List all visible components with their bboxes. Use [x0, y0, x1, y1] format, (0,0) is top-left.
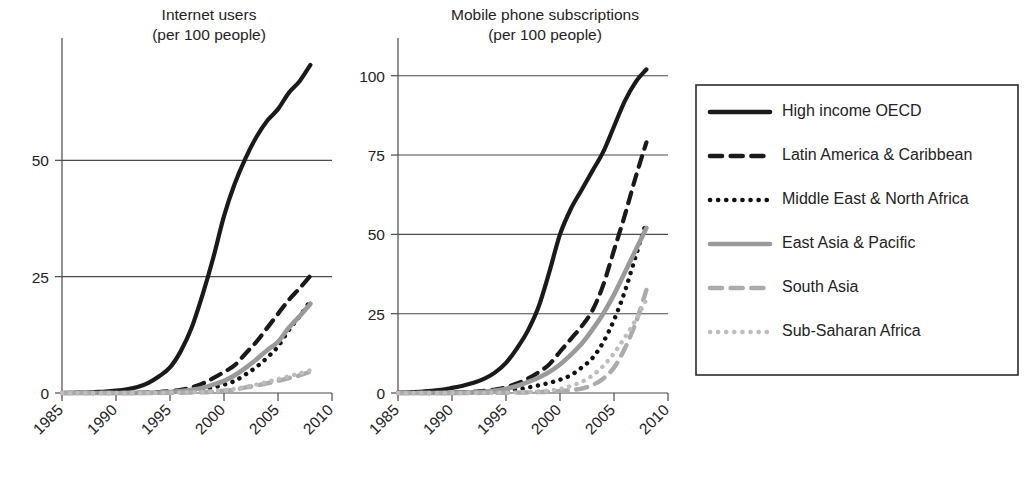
series-line-east-asia-pacific [398, 228, 646, 393]
legend: High income OECDLatin America & Caribbea… [696, 85, 1018, 375]
xtick-label-1990: 1990 [84, 401, 121, 438]
xtick-label-1995: 1995 [138, 401, 174, 437]
legend-label-1: High income OECD [782, 102, 922, 119]
legend-label-4: East Asia & Pacific [782, 234, 915, 251]
panel-title-line-1: Internet users [162, 6, 257, 23]
panel-title-line-1: Mobile phone subscriptions [451, 6, 639, 23]
series-line-latin-america-caribbean [398, 142, 646, 393]
xtick-label-1995: 1995 [474, 401, 510, 437]
xtick-label-1985: 1985 [30, 401, 66, 437]
ytick-label-50: 50 [368, 226, 386, 243]
legend-item-east-asia-pacific[interactable]: East Asia & Pacific [710, 234, 915, 251]
ytick-label-0: 0 [40, 385, 49, 402]
ytick-label-25: 25 [32, 269, 49, 286]
chart-figure: Internet users(per 100 people)0255019851… [0, 0, 1025, 480]
series-line-latin-america-caribbean [62, 276, 310, 393]
legend-label-5: South Asia [782, 278, 859, 295]
xtick-label-2010: 2010 [300, 401, 337, 438]
legend-label-2: Latin America & Caribbean [782, 146, 972, 163]
legend-label-3: Middle East & North Africa [782, 190, 969, 207]
panel-title-line-2: (per 100 people) [152, 26, 266, 43]
ytick-label-100: 100 [359, 68, 385, 85]
series-line-high-income-oecd [398, 69, 646, 392]
legend-item-high-income-oecd[interactable]: High income OECD [710, 102, 922, 119]
xtick-label-2010: 2010 [636, 401, 673, 438]
legend-label-6: Sub-Saharan Africa [782, 322, 921, 339]
legend-item-latin-america-caribbean[interactable]: Latin America & Caribbean [710, 146, 972, 163]
ytick-label-25: 25 [368, 306, 385, 323]
xtick-label-2000: 2000 [528, 401, 565, 438]
panel-title-line-2: (per 100 people) [488, 26, 602, 43]
legend-item-south-asia[interactable]: South Asia [710, 278, 859, 295]
xtick-label-2000: 2000 [192, 401, 229, 438]
chart-panel-mobile-phone-subscriptions: Mobile phone subscriptions(per 100 peopl… [359, 6, 672, 438]
xtick-label-1985: 1985 [366, 401, 402, 437]
ytick-label-0: 0 [376, 385, 385, 402]
legend-item-sub-saharan-africa[interactable]: Sub-Saharan Africa [710, 322, 921, 339]
xtick-label-2005: 2005 [582, 401, 618, 437]
xtick-label-2005: 2005 [246, 401, 282, 437]
ytick-label-50: 50 [32, 152, 50, 169]
xtick-label-1990: 1990 [420, 401, 457, 438]
legend-item-middle-east-north-africa[interactable]: Middle East & North Africa [710, 190, 969, 207]
ytick-label-75: 75 [368, 147, 385, 164]
chart-panel-internet-users: Internet users(per 100 people)0255019851… [30, 6, 337, 438]
